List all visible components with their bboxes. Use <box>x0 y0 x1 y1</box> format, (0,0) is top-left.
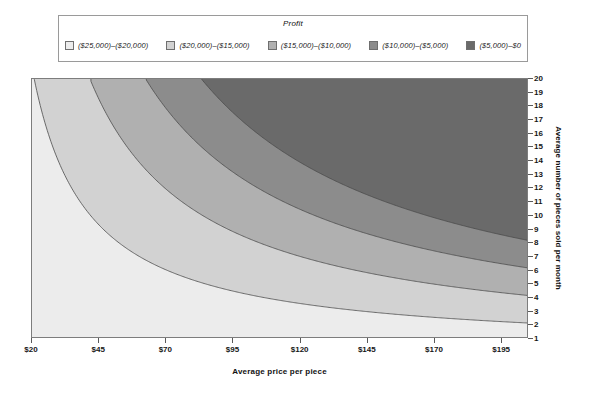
y-tick-label: 18 <box>534 101 543 110</box>
y-tick-label: 8 <box>534 238 538 247</box>
legend-title: Profit <box>59 19 527 28</box>
x-tick-label: $45 <box>91 345 104 354</box>
x-tick-mark <box>165 338 166 343</box>
y-tick-label: 11 <box>534 197 542 206</box>
y-tick-mark <box>528 215 533 216</box>
y-tick-label: 13 <box>534 169 543 178</box>
x-tick-mark <box>434 338 435 343</box>
y-tick-mark <box>528 119 533 120</box>
y-tick-label: 4 <box>534 292 538 301</box>
x-tick-label: $20 <box>24 345 37 354</box>
x-axis-ticks <box>31 338 528 344</box>
x-axis-title: Average price per piece <box>31 367 528 376</box>
x-tick-mark <box>31 338 32 343</box>
x-tick-mark <box>98 338 99 343</box>
y-tick-label: 9 <box>534 224 538 233</box>
x-tick-label: $195 <box>492 345 510 354</box>
y-tick-label: 6 <box>534 265 538 274</box>
legend-item[interactable]: ($15,000)–($10,000) <box>268 41 351 50</box>
y-tick-mark <box>528 105 533 106</box>
legend-item[interactable]: ($20,000)–($15,000) <box>166 41 249 50</box>
y-axis-tick-labels: 1234567891011121314151617181920 <box>534 78 550 338</box>
legend-swatch-icon <box>65 41 74 50</box>
legend-swatch-icon <box>369 41 378 50</box>
y-tick-label: 3 <box>534 306 538 315</box>
y-tick-mark <box>528 283 533 284</box>
x-tick-label: $145 <box>358 345 376 354</box>
legend-item-label: ($10,000)–($5,000) <box>382 41 448 50</box>
legend-swatch-icon <box>166 41 175 50</box>
x-tick-mark <box>501 338 502 343</box>
y-tick-mark <box>528 174 533 175</box>
legend-swatch-icon <box>268 41 277 50</box>
x-tick-label: $70 <box>159 345 172 354</box>
y-tick-mark <box>528 324 533 325</box>
y-tick-mark <box>528 256 533 257</box>
x-tick-label: $170 <box>425 345 443 354</box>
y-tick-label: 15 <box>534 142 543 151</box>
y-tick-label: 20 <box>534 74 543 83</box>
y-tick-label: 14 <box>534 156 543 165</box>
y-axis-title: Average number of pieces sold per month <box>549 78 563 338</box>
legend-item-label: ($5,000)–$0 <box>479 41 521 50</box>
y-tick-label: 1 <box>534 334 538 343</box>
y-tick-label: 19 <box>534 87 543 96</box>
legend-item-label: ($25,000)–($20,000) <box>78 41 148 50</box>
contour-plot-area <box>31 78 528 338</box>
y-tick-mark <box>528 187 533 188</box>
x-tick-label: $95 <box>226 345 239 354</box>
legend-item[interactable]: ($10,000)–($5,000) <box>369 41 448 50</box>
legend-item[interactable]: ($5,000)–$0 <box>466 41 521 50</box>
y-tick-label: 17 <box>534 115 543 124</box>
legend-item[interactable]: ($25,000)–($20,000) <box>65 41 148 50</box>
y-tick-label: 10 <box>534 210 543 219</box>
legend-item-label: ($20,000)–($15,000) <box>179 41 249 50</box>
legend-item-label: ($15,000)–($10,000) <box>281 41 351 50</box>
y-tick-mark <box>528 201 533 202</box>
y-tick-mark <box>528 270 533 271</box>
legend-box: Profit ($25,000)–($20,000) ($20,000)–($1… <box>58 15 528 62</box>
y-tick-mark <box>528 242 533 243</box>
y-tick-label: 12 <box>534 183 543 192</box>
y-tick-mark <box>528 229 533 230</box>
x-tick-mark <box>300 338 301 343</box>
x-axis-tick-labels: $20$45$70$95$120$145$170$195 <box>0 345 613 359</box>
y-tick-mark <box>528 133 533 134</box>
y-tick-mark <box>528 338 533 339</box>
legend-items: ($25,000)–($20,000) ($20,000)–($15,000) … <box>59 41 527 50</box>
y-tick-mark <box>528 92 533 93</box>
contour-surface <box>32 79 527 337</box>
y-tick-mark <box>528 160 533 161</box>
y-tick-mark <box>528 78 533 79</box>
y-tick-label: 5 <box>534 279 538 288</box>
y-tick-label: 2 <box>534 320 538 329</box>
y-tick-label: 7 <box>534 251 538 260</box>
x-tick-label: $120 <box>291 345 309 354</box>
y-tick-mark <box>528 311 533 312</box>
x-tick-mark <box>367 338 368 343</box>
y-tick-label: 16 <box>534 128 543 137</box>
x-tick-mark <box>232 338 233 343</box>
y-tick-mark <box>528 297 533 298</box>
legend-swatch-icon <box>466 41 475 50</box>
y-tick-mark <box>528 146 533 147</box>
